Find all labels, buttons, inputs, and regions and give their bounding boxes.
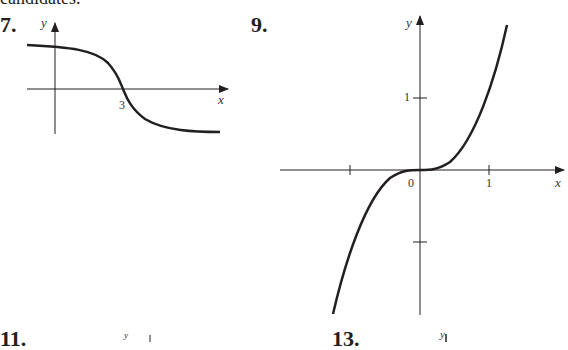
- graph-7: [27, 23, 228, 134]
- graph-9: [280, 16, 564, 315]
